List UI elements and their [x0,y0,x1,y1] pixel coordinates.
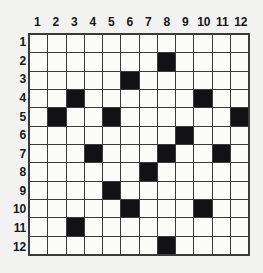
grid-cell-r9c2[interactable] [48,182,65,199]
grid-cell-r7c10[interactable] [194,145,211,162]
grid-cell-r1c7[interactable] [140,35,157,52]
grid-cell-r9c9[interactable] [176,182,193,199]
grid-cell-r10c11[interactable] [213,200,230,217]
grid-cell-r1c9[interactable] [176,35,193,52]
grid-cell-r11c7[interactable] [140,218,157,235]
grid-cell-r9c7[interactable] [140,182,157,199]
grid-cell-r3c10[interactable] [194,72,211,89]
grid-cell-r12c9[interactable] [176,237,193,254]
grid-cell-r4c7[interactable] [140,90,157,107]
grid-cell-r4c11[interactable] [213,90,230,107]
grid-cell-r1c5[interactable] [103,35,120,52]
grid-cell-r8c2[interactable] [48,163,65,180]
grid-cell-r5c5[interactable] [103,108,120,125]
grid-cell-r1c8[interactable] [158,35,175,52]
grid-cell-r1c12[interactable] [231,35,248,52]
grid-cell-r10c3[interactable] [67,200,84,217]
grid-cell-r10c1[interactable] [30,200,47,217]
grid-cell-r4c2[interactable] [48,90,65,107]
grid-cell-r6c3[interactable] [67,127,84,144]
grid-cell-r9c6[interactable] [121,182,138,199]
grid-cell-r9c12[interactable] [231,182,248,199]
grid-cell-r5c11[interactable] [213,108,230,125]
grid-cell-r1c1[interactable] [30,35,47,52]
grid-cell-r7c9[interactable] [176,145,193,162]
grid-cell-r2c9[interactable] [176,53,193,70]
grid-cell-r11c6[interactable] [121,218,138,235]
grid-cell-r12c7[interactable] [140,237,157,254]
grid-cell-r1c2[interactable] [48,35,65,52]
grid-cell-r11c12[interactable] [231,218,248,235]
grid-cell-r12c4[interactable] [85,237,102,254]
grid-cell-r3c6[interactable] [121,72,138,89]
grid-cell-r6c9[interactable] [176,127,193,144]
grid-cell-r11c1[interactable] [30,218,47,235]
grid-cell-r11c9[interactable] [176,218,193,235]
grid-cell-r6c6[interactable] [121,127,138,144]
grid-cell-r12c3[interactable] [67,237,84,254]
grid-cell-r3c5[interactable] [103,72,120,89]
grid-cell-r6c11[interactable] [213,127,230,144]
grid-cell-r3c12[interactable] [231,72,248,89]
grid-cell-r11c2[interactable] [48,218,65,235]
grid-cell-r4c1[interactable] [30,90,47,107]
grid-cell-r4c12[interactable] [231,90,248,107]
grid-cell-r1c11[interactable] [213,35,230,52]
puzzle-grid[interactable] [28,33,250,256]
grid-cell-r7c2[interactable] [48,145,65,162]
grid-cell-r12c10[interactable] [194,237,211,254]
grid-cell-r8c7[interactable] [140,163,157,180]
grid-cell-r11c11[interactable] [213,218,230,235]
grid-cell-r1c4[interactable] [85,35,102,52]
grid-cell-r3c8[interactable] [158,72,175,89]
grid-cell-r2c6[interactable] [121,53,138,70]
grid-cell-r10c7[interactable] [140,200,157,217]
grid-cell-r8c8[interactable] [158,163,175,180]
grid-cell-r11c10[interactable] [194,218,211,235]
grid-cell-r1c10[interactable] [194,35,211,52]
grid-cell-r8c5[interactable] [103,163,120,180]
grid-cell-r8c4[interactable] [85,163,102,180]
grid-cell-r2c12[interactable] [231,53,248,70]
grid-cell-r12c11[interactable] [213,237,230,254]
grid-cell-r8c10[interactable] [194,163,211,180]
grid-cell-r7c4[interactable] [85,145,102,162]
grid-cell-r12c5[interactable] [103,237,120,254]
grid-cell-r5c8[interactable] [158,108,175,125]
grid-cell-r10c6[interactable] [121,200,138,217]
grid-cell-r10c4[interactable] [85,200,102,217]
grid-cell-r12c8[interactable] [158,237,175,254]
grid-cell-r9c1[interactable] [30,182,47,199]
grid-cell-r7c12[interactable] [231,145,248,162]
grid-cell-r3c4[interactable] [85,72,102,89]
grid-cell-r9c3[interactable] [67,182,84,199]
grid-cell-r10c2[interactable] [48,200,65,217]
grid-cell-r6c4[interactable] [85,127,102,144]
grid-cell-r10c8[interactable] [158,200,175,217]
grid-cell-r6c12[interactable] [231,127,248,144]
grid-cell-r5c6[interactable] [121,108,138,125]
grid-cell-r5c3[interactable] [67,108,84,125]
grid-cell-r1c3[interactable] [67,35,84,52]
grid-cell-r8c12[interactable] [231,163,248,180]
grid-cell-r2c8[interactable] [158,53,175,70]
grid-cell-r11c4[interactable] [85,218,102,235]
grid-cell-r3c9[interactable] [176,72,193,89]
grid-cell-r8c11[interactable] [213,163,230,180]
grid-cell-r6c2[interactable] [48,127,65,144]
grid-cell-r7c8[interactable] [158,145,175,162]
grid-cell-r4c6[interactable] [121,90,138,107]
grid-cell-r4c9[interactable] [176,90,193,107]
grid-cell-r12c12[interactable] [231,237,248,254]
grid-cell-r5c9[interactable] [176,108,193,125]
grid-cell-r2c11[interactable] [213,53,230,70]
grid-cell-r3c11[interactable] [213,72,230,89]
grid-cell-r5c1[interactable] [30,108,47,125]
grid-cell-r6c8[interactable] [158,127,175,144]
grid-cell-r7c6[interactable] [121,145,138,162]
grid-cell-r11c5[interactable] [103,218,120,235]
grid-cell-r10c5[interactable] [103,200,120,217]
grid-cell-r6c1[interactable] [30,127,47,144]
grid-cell-r4c5[interactable] [103,90,120,107]
grid-cell-r4c3[interactable] [67,90,84,107]
